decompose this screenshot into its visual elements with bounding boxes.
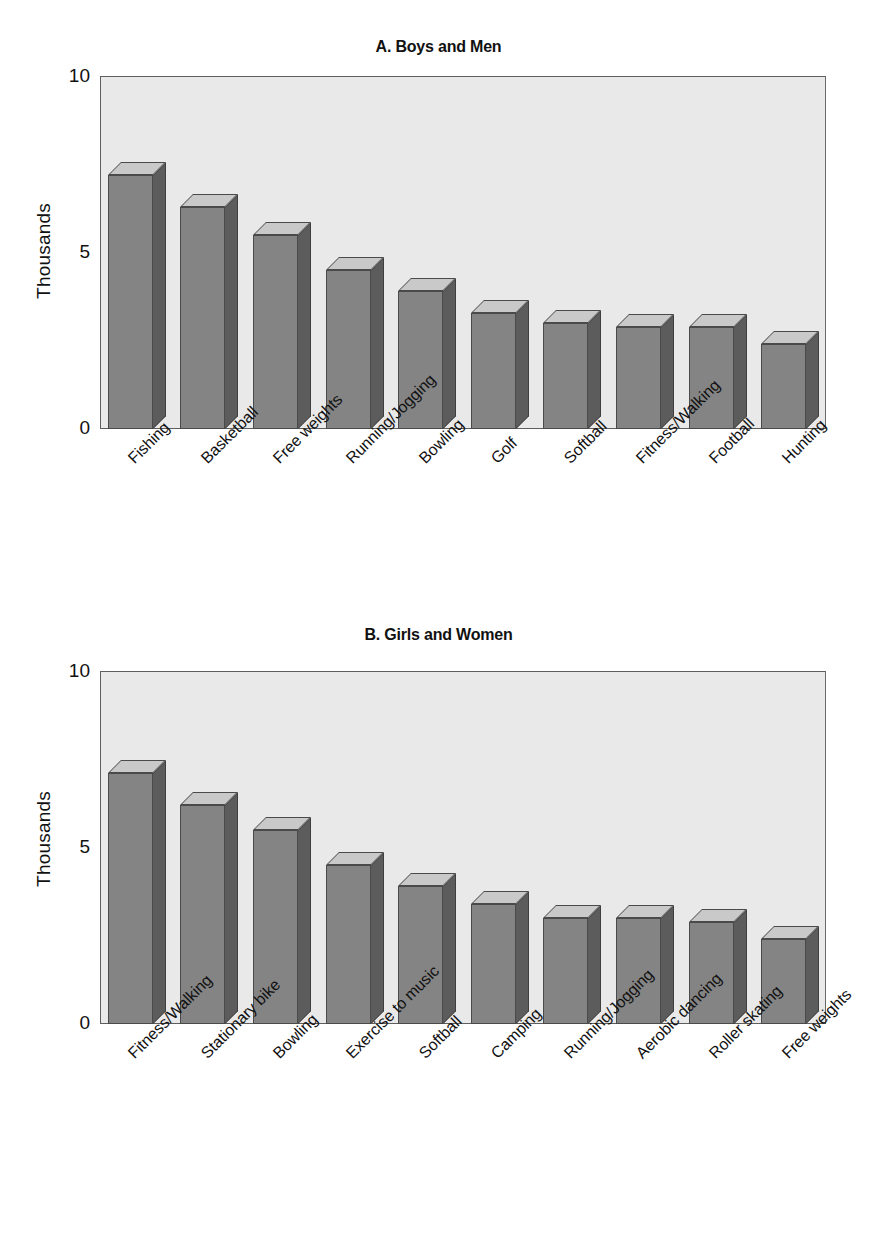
chart-b-title: B. Girls and Women (0, 626, 877, 644)
chart-a-ytick-0: 0 (44, 417, 90, 439)
chart-panel-a: A. Boys and Men Thousands 10 5 0 Fishing… (0, 0, 877, 610)
chart-a-ytick-5: 5 (44, 241, 90, 263)
chart-a-title: A. Boys and Men (0, 38, 877, 56)
chart-b-ytick-5: 5 (44, 836, 90, 858)
chart-b-plot-area (100, 671, 826, 1024)
chart-panel-b: B. Girls and Women Thousands 10 5 0 Fitn… (0, 600, 877, 1244)
chart-a-plot-area (100, 76, 826, 429)
chart-b-ytick-0: 0 (44, 1012, 90, 1034)
chart-a-ytick-10: 10 (44, 65, 90, 87)
chart-b-ytick-10: 10 (44, 660, 90, 682)
category-label: Golf (488, 434, 521, 467)
